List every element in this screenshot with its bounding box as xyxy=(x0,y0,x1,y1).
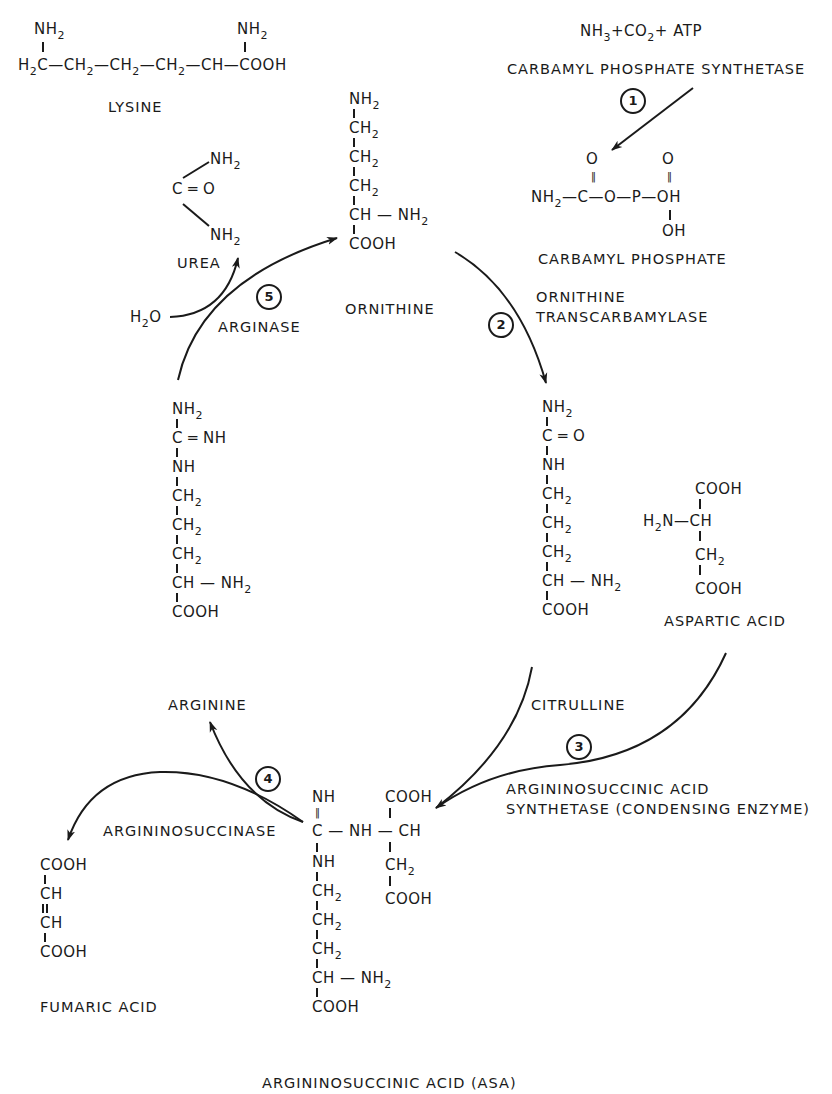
step3-enzyme-line2: SYNTHETASE (CONDENSING ENZYME) xyxy=(506,800,810,818)
asa-cooh-top: COOH xyxy=(385,788,432,806)
fumaric-label: FUMARIC ACID xyxy=(40,998,158,1016)
citrulline-label: CITRULLINE xyxy=(531,696,625,714)
step5-enzyme: ARGINASE xyxy=(218,318,301,336)
aspartic-cooh-bottom: COOH xyxy=(695,580,742,598)
step2-enzyme-line1: ORNITHINE xyxy=(536,288,626,306)
bond xyxy=(699,565,701,575)
step3-enzyme-line1: ARGININOSUCCINIC ACID xyxy=(506,780,709,798)
lysine-chain: H2C—CH2—CH2—CH2—CH—COOH xyxy=(18,56,287,76)
bond xyxy=(42,42,44,52)
bond xyxy=(389,808,391,818)
step3-number: 3 xyxy=(566,734,592,760)
lysine-label: LYSINE xyxy=(108,98,163,116)
ornithine-label: ORNITHINE xyxy=(345,300,435,318)
asa-label: ARGININOSUCCINIC ACID (ASA) xyxy=(262,1074,517,1092)
lysine-nh2-right: NH2 xyxy=(237,20,268,40)
carbamyl-label: CARBAMYL PHOSPHATE xyxy=(538,250,727,268)
asa-cooh-right: COOH xyxy=(385,890,432,908)
step4-number: 4 xyxy=(255,766,281,792)
asa-double-bond: ‖ xyxy=(315,804,321,822)
bond xyxy=(699,499,701,509)
aspartic-h2n-ch: H2N—CH xyxy=(643,512,712,532)
arginine-structure: NH2 C ═ NH NH CH2 CH2 CH2 CH — NH2 COOH xyxy=(172,400,252,621)
bond xyxy=(669,210,671,220)
carbamyl-o1: O xyxy=(586,150,598,168)
carbamyl-o2: O xyxy=(662,150,674,168)
citrulline-structure: NH2 C ═ O NH CH2 CH2 CH2 CH — NH2 COOH xyxy=(542,398,622,619)
carbamyl-double-bond-1: ‖ xyxy=(591,168,597,186)
step1-enzyme: CARBAMYL PHOSPHATE SYNTHETASE xyxy=(507,60,805,78)
arginine-label: ARGININE xyxy=(168,696,247,714)
bond xyxy=(699,531,701,541)
bond xyxy=(244,42,246,52)
urea-bonds xyxy=(175,160,215,235)
step4-enzyme: ARGININOSUCCINASE xyxy=(103,822,276,840)
aspartic-cooh-top: COOH xyxy=(695,480,742,498)
lysine-nh2-left: NH2 xyxy=(34,20,65,40)
urea-cycle-diagram: NH2 NH2 H2C—CH2—CH2—CH2—CH—COOH LYSINE N… xyxy=(0,0,832,1094)
fumaric-structure: COOH CH CH COOH xyxy=(40,856,87,961)
carbamyl-chain: NH2—C—O—P—OH xyxy=(531,188,681,208)
step2-enzyme-line2: TRANSCARBAMYLASE xyxy=(536,308,708,326)
ornithine-structure: NH2 CH2 CH2 CH2 CH — NH2 COOH xyxy=(349,90,429,253)
urea-label: UREA xyxy=(177,254,221,272)
carbamyl-oh: OH xyxy=(662,222,686,240)
step1-reactants: NH3+CO2+ ATP xyxy=(580,22,702,42)
aspartic-label: ASPARTIC ACID xyxy=(664,612,786,630)
carbamyl-double-bond-2: ‖ xyxy=(667,168,673,186)
step1-number: 1 xyxy=(620,88,646,114)
aspartic-ch2: CH2 xyxy=(695,546,725,566)
h2o-reactant: H2O xyxy=(130,308,162,328)
asa-main-row: C — NH — CH xyxy=(312,822,421,840)
asa-chain: NH CH2 CH2 CH2 CH — NH2 COOH xyxy=(312,842,392,1016)
step5-number: 5 xyxy=(256,284,282,310)
step2-number: 2 xyxy=(488,312,514,338)
